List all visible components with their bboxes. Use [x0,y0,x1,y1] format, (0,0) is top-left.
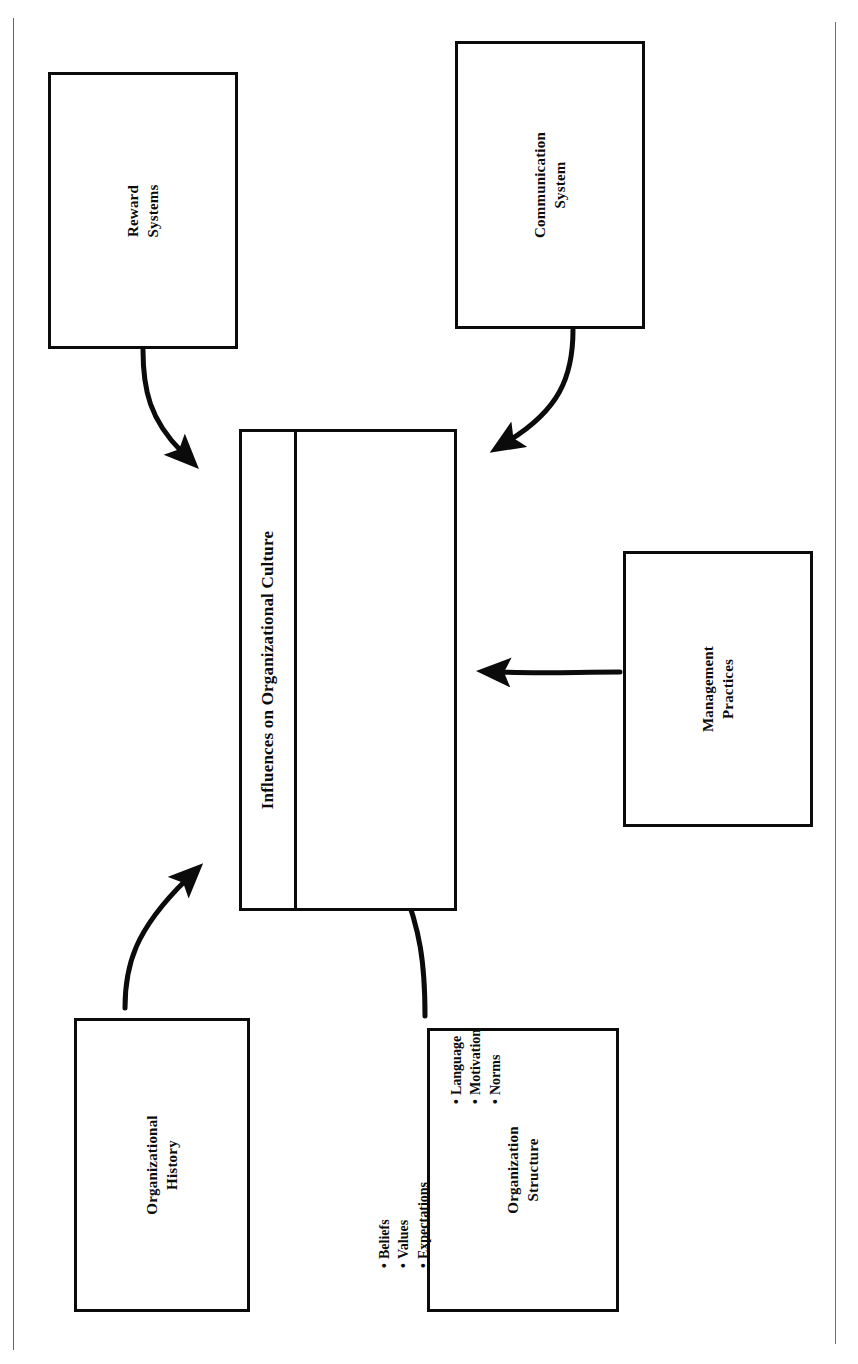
node-reward-systems[interactable]: Reward Systems [48,72,238,349]
page-rule-right [835,22,836,1344]
node-communication-system[interactable]: Communication System [455,41,645,329]
bullet-dot-icon: • [414,1259,433,1268]
center-box[interactable]: Influences on Organizational Culture •Be… [239,429,457,911]
arrow-history-to-center [125,880,186,1008]
list-item: •Beliefs [375,1182,394,1268]
page-rule-left [13,18,14,1350]
center-bullet-column-right: •Language •Motivation •Norms [447,1029,505,1104]
list-item: •Language [447,1029,466,1104]
center-title: Influences on Organizational Culture [258,531,278,809]
node-reward-systems-label: Reward Systems [123,184,164,237]
node-management-practices[interactable]: Management Practices [623,551,813,827]
list-item: •Norms [486,1029,505,1104]
node-organization-structure-label: Organization Structure [503,1126,544,1213]
node-communication-system-label: Communication System [530,132,571,238]
list-item: •Motivation [466,1029,485,1104]
center-title-band: Influences on Organizational Culture [242,432,297,908]
center-body: •Beliefs •Values •Expectations •Language [297,432,454,908]
node-management-practices-label: Management Practices [698,646,739,732]
arrow-management-to-center [500,672,620,673]
bullet-dot-icon: • [486,1095,505,1104]
scanned-page: Reward Systems Communication System Mana… [0,0,858,1364]
center-bullet-column-left: •Beliefs •Values •Expectations [375,1182,433,1268]
bullet-dot-icon: • [375,1259,394,1268]
bullet-dot-icon: • [447,1095,466,1104]
list-item: •Expectations [414,1182,433,1268]
bullet-dot-icon: • [466,1095,485,1104]
arrow-reward-to-center [143,350,182,452]
node-organizational-history[interactable]: Organizational History [74,1018,250,1312]
list-item: •Values [394,1182,413,1268]
arrow-communication-to-center [510,330,573,440]
node-organizational-history-label: Organizational History [142,1115,183,1214]
bullet-dot-icon: • [394,1259,413,1268]
